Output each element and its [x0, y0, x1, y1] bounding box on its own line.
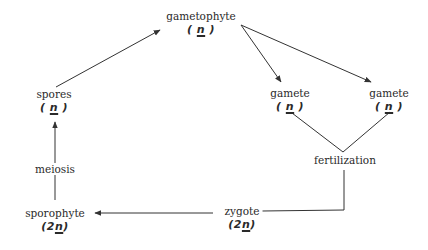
- node-gamete-left-label: gamete: [270, 87, 310, 100]
- node-gamete-left-ploidy: ( n ): [270, 100, 310, 113]
- edge-gamete-left-to-fertilization: [292, 113, 343, 152]
- node-sporophyte: sporophyte (2n): [25, 207, 85, 233]
- node-gamete-left: gamete ( n ): [270, 87, 310, 113]
- node-gamete-right: gamete ( n ): [369, 87, 409, 113]
- edge-spores-to-gametophyte: [56, 30, 160, 87]
- node-gametophyte-ploidy: ( n ): [166, 23, 236, 36]
- edge-fertilization-to-zygote: [262, 170, 344, 211]
- node-spores-ploidy: ( n ): [36, 101, 71, 114]
- node-gamete-right-ploidy: ( n ): [369, 100, 409, 113]
- node-zygote-label: zygote: [225, 205, 260, 218]
- node-spores-label: spores: [36, 88, 71, 101]
- node-gametophyte-label: gametophyte: [166, 10, 236, 23]
- node-sporophyte-label: sporophyte: [25, 207, 85, 220]
- node-sporophyte-ploidy: (2n): [25, 220, 85, 233]
- node-zygote: zygote (2n): [222, 205, 263, 231]
- node-gametophyte: gametophyte ( n ): [166, 10, 236, 36]
- node-gamete-right-label: gamete: [369, 87, 409, 100]
- process-fertilization: fertilization: [312, 154, 378, 166]
- life-cycle-diagram: gametophyte ( n ) spores ( n ) gamete ( …: [0, 0, 428, 250]
- node-spores: spores ( n ): [36, 88, 71, 114]
- node-zygote-ploidy: (2n): [225, 218, 260, 231]
- process-meiosis: meiosis: [33, 163, 77, 175]
- edge-gamete-right-to-fertilization: [343, 112, 390, 152]
